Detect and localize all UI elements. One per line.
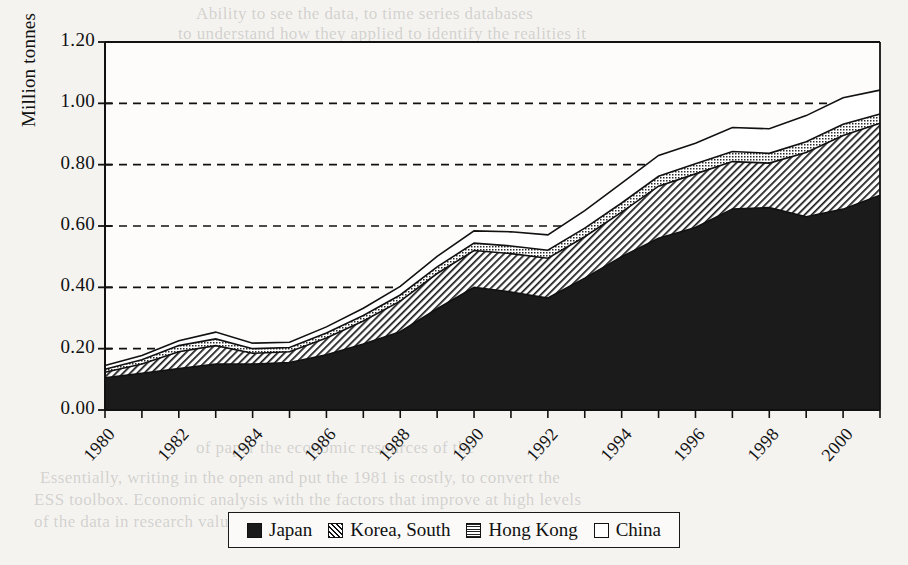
legend-item[interactable]: Korea, South <box>328 519 450 541</box>
legend-label: China <box>616 519 661 541</box>
legend-label: Hong Kong <box>488 519 577 541</box>
stacked-area-chart: Million tonnes 0.000.200.400.600.801.001… <box>0 0 908 565</box>
plot-area <box>0 0 908 565</box>
legend-item[interactable]: China <box>594 519 661 541</box>
legend-swatch-hong-kong <box>466 523 481 538</box>
legend-label: Korea, South <box>350 519 450 541</box>
legend-swatch-korea-south <box>328 523 343 538</box>
legend-swatch-china <box>594 523 609 538</box>
legend-item[interactable]: Japan <box>247 519 312 541</box>
legend-swatch-japan <box>247 523 262 538</box>
legend-label: Japan <box>269 519 312 541</box>
chart-legend: JapanKorea, SouthHong KongChina <box>228 512 680 548</box>
legend-item[interactable]: Hong Kong <box>466 519 577 541</box>
